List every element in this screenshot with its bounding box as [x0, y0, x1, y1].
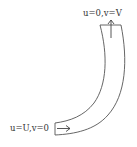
outlet-label: u=0,v=V	[83, 8, 123, 18]
inlet-arrow-icon	[57, 126, 70, 132]
outlet-arrow-icon	[108, 20, 114, 38]
pipe-outer-wall	[55, 25, 125, 135]
pipe-inner-wall	[55, 25, 105, 123]
pipe-bend-diagram: u=0,v=V u=U,v=0	[0, 0, 137, 147]
inlet-label: u=U,v=0	[10, 123, 49, 133]
